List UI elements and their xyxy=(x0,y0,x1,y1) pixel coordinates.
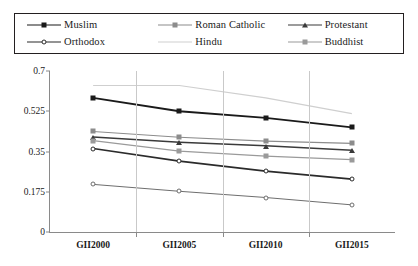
x-axis-label: GII2005 xyxy=(162,240,196,250)
data-point-marker xyxy=(176,140,182,145)
legend-item-orthodox[interactable]: Orthodox xyxy=(15,36,144,48)
data-point-marker xyxy=(177,159,182,164)
legend-label: Roman Catholic xyxy=(195,20,265,31)
x-tick-mark xyxy=(136,232,137,237)
legend-swatch-icon xyxy=(288,36,322,48)
y-tick-mark xyxy=(46,111,50,112)
legend-swatch-icon xyxy=(158,19,192,31)
data-point-marker xyxy=(91,138,96,143)
data-point-marker xyxy=(349,157,354,162)
data-point-marker xyxy=(263,195,268,200)
data-point-marker xyxy=(263,115,268,120)
legend-label: Orthodox xyxy=(64,37,105,48)
y-tick-mark xyxy=(46,191,50,192)
gridline-vertical xyxy=(136,71,137,232)
y-tick-mark xyxy=(46,71,50,72)
legend-item-buddhist[interactable]: Buddhist xyxy=(274,36,403,48)
data-point-marker xyxy=(349,125,354,130)
legend-swatch-icon xyxy=(158,36,192,48)
legend-label: Hindu xyxy=(195,37,222,48)
x-axis-label: GII2015 xyxy=(335,240,369,250)
legend-item-protestant[interactable]: Protestant xyxy=(274,19,403,31)
y-tick-mark xyxy=(46,232,50,233)
data-point-marker xyxy=(91,95,96,100)
x-axis-label: GII2000 xyxy=(76,240,110,250)
data-point-marker xyxy=(263,154,268,159)
y-tick-mark xyxy=(46,151,50,152)
data-point-marker xyxy=(177,135,182,140)
chart-figure: MuslimRoman CatholicProtestantOrthodoxHi… xyxy=(0,0,418,266)
legend-label: Muslim xyxy=(64,20,97,31)
legend-swatch-icon xyxy=(27,36,61,48)
x-tick-mark xyxy=(309,232,310,237)
legend-item-hindu[interactable]: Hindu xyxy=(144,36,273,48)
x-tick-mark xyxy=(223,232,224,237)
plot-area: 00.1750.350.5250.7GII2000GII2005GII2010G… xyxy=(49,71,395,233)
data-point-marker xyxy=(349,202,354,207)
data-point-marker xyxy=(177,109,182,114)
data-point-marker xyxy=(263,169,268,174)
data-point-marker xyxy=(349,141,354,146)
legend-item-muslim[interactable]: Muslim xyxy=(15,19,144,31)
gridline-vertical xyxy=(309,71,310,232)
data-point-marker xyxy=(177,149,182,154)
data-point-marker xyxy=(349,177,354,182)
legend-label: Protestant xyxy=(325,20,368,31)
data-point-marker xyxy=(91,129,96,134)
data-point-marker xyxy=(349,148,355,153)
data-point-marker xyxy=(177,189,182,194)
legend-item-roman-catholic[interactable]: Roman Catholic xyxy=(144,19,273,31)
data-point-marker xyxy=(263,144,269,149)
gridline-vertical xyxy=(223,71,224,232)
legend-swatch-icon xyxy=(288,19,322,31)
legend-grid: MuslimRoman CatholicProtestantOrthodoxHi… xyxy=(15,14,403,53)
x-axis-label: GII2010 xyxy=(249,240,283,250)
legend-swatch-icon xyxy=(27,19,61,31)
data-point-marker xyxy=(91,182,96,187)
data-point-marker xyxy=(91,146,96,151)
legend-label: Buddhist xyxy=(325,37,364,48)
chart-legend: MuslimRoman CatholicProtestantOrthodoxHi… xyxy=(14,13,404,54)
